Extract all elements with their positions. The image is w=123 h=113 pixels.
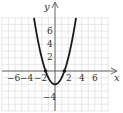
chart: y x −6 −4 −2 2 4 6 6 4 2 −4 — [0, 0, 123, 113]
y-tick-label: 6 — [47, 26, 53, 36]
y-tick-label: −4 — [43, 92, 57, 102]
x-tick-label: −4 — [20, 73, 34, 83]
y-tick-label: 2 — [47, 52, 53, 62]
y-axis-label: y — [43, 1, 50, 12]
x-tick-label: 4 — [79, 73, 85, 83]
y-tick-labels: 6 4 2 −4 — [43, 26, 57, 102]
x-tick-label: 6 — [92, 73, 98, 83]
axes — [2, 2, 117, 111]
x-tick-label: −2 — [34, 73, 47, 83]
x-axis-label: x — [114, 72, 120, 83]
y-tick-label: 4 — [47, 39, 53, 49]
x-tick-label: 2 — [66, 73, 72, 83]
x-tick-labels: −6 −4 −2 2 4 6 — [7, 73, 98, 83]
x-tick-label: −6 — [7, 73, 21, 83]
